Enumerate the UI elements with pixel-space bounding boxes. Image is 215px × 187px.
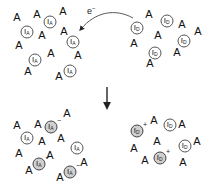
molecule-a-label: A bbox=[38, 136, 45, 147]
molecule-a-label: A bbox=[15, 40, 22, 51]
species-label: IA bbox=[74, 144, 80, 152]
species-label: IA bbox=[32, 56, 38, 64]
charge-sign: + bbox=[166, 148, 170, 155]
acceptor-circle: IA bbox=[29, 54, 42, 67]
donor-circle: ID bbox=[178, 35, 191, 48]
donor-circle: ID bbox=[161, 15, 174, 28]
electron-label: e− bbox=[87, 5, 96, 16]
species-label: IA bbox=[67, 67, 73, 75]
molecule-a-label: A bbox=[24, 66, 31, 77]
acceptor-ion-circle: IA bbox=[45, 121, 58, 134]
acceptor-circle: IA bbox=[21, 132, 34, 145]
acceptor-ion-circle: IA bbox=[33, 158, 46, 171]
molecule-a-label: A bbox=[80, 157, 87, 168]
molecule-a-label: A bbox=[154, 30, 161, 41]
molecule-a-label: A bbox=[130, 143, 137, 154]
molecule-a-label: A bbox=[57, 133, 64, 144]
species-label: ID bbox=[134, 24, 140, 32]
charge-sign: + bbox=[143, 121, 147, 128]
species-label: IA bbox=[24, 28, 30, 36]
species-label: ID bbox=[157, 154, 163, 162]
species-label: IA bbox=[70, 38, 76, 46]
molecule-a-label: A bbox=[141, 155, 148, 166]
molecule-a-label: A bbox=[178, 119, 185, 130]
molecule-a-label: A bbox=[63, 108, 70, 119]
species-label: IA bbox=[67, 168, 73, 176]
donor-ion-circle: ID bbox=[154, 152, 167, 165]
donor-circle: ID bbox=[149, 47, 162, 60]
species-label: ID bbox=[167, 121, 173, 129]
molecule-a-label: A bbox=[13, 12, 20, 23]
acceptor-circle: IA bbox=[44, 16, 57, 29]
molecule-a-label: A bbox=[130, 38, 137, 49]
donor-ion-circle: ID bbox=[131, 125, 144, 138]
molecule-a-label: A bbox=[34, 119, 41, 130]
charge-sign: − bbox=[45, 154, 49, 161]
molecule-a-label: A bbox=[47, 48, 54, 59]
charge-sign: − bbox=[57, 117, 61, 124]
molecule-a-label: A bbox=[179, 157, 186, 168]
molecule-a-label: A bbox=[33, 9, 40, 20]
molecule-a-label: A bbox=[38, 30, 45, 41]
donor-circle: ID bbox=[131, 22, 144, 35]
molecule-a-label: A bbox=[55, 71, 62, 82]
species-label: ID bbox=[182, 142, 188, 150]
molecule-a-label: A bbox=[13, 120, 20, 131]
donor-circle: ID bbox=[164, 119, 177, 132]
molecule-a-label: A bbox=[60, 26, 67, 37]
species-label: ID bbox=[181, 37, 187, 45]
molecule-a-label: A bbox=[153, 136, 160, 147]
charge-sign: − bbox=[76, 162, 80, 169]
molecule-a-label: A bbox=[194, 26, 201, 37]
acceptor-circle: IA bbox=[71, 142, 84, 155]
molecule-a-label: A bbox=[145, 9, 152, 20]
species-label: IA bbox=[24, 134, 30, 142]
molecule-a-label: A bbox=[56, 172, 63, 183]
molecule-a-label: A bbox=[150, 115, 157, 126]
species-label: IA bbox=[47, 18, 53, 26]
acceptor-ion-circle: IA bbox=[64, 166, 77, 179]
species-label: ID bbox=[134, 127, 140, 135]
molecule-a-label: A bbox=[193, 136, 200, 147]
acceptor-circle: IA bbox=[21, 26, 34, 39]
molecule-a-label: A bbox=[173, 47, 180, 58]
molecule-a-label: A bbox=[59, 6, 66, 17]
molecule-a-label: A bbox=[25, 165, 32, 176]
donor-circle: ID bbox=[179, 140, 192, 153]
species-label: ID bbox=[164, 17, 170, 25]
molecule-a-label: A bbox=[74, 50, 81, 61]
acceptor-circle: IA bbox=[64, 65, 77, 78]
molecule-a-label: A bbox=[178, 19, 185, 30]
species-label: ID bbox=[152, 49, 158, 57]
species-label: IA bbox=[48, 123, 54, 131]
species-label: IA bbox=[36, 160, 42, 168]
acceptor-circle: IA bbox=[67, 36, 80, 49]
molecule-a-label: A bbox=[15, 148, 22, 159]
